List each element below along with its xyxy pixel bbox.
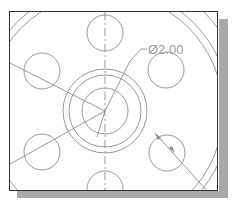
frame-shadow-right (219, 19, 228, 198)
outer-circle-1 (10, 12, 218, 191)
drawing-viewport[interactable]: Ø2.00 (9, 11, 218, 191)
frame-shadow-bottom (17, 191, 228, 198)
radial-line-upper (10, 63, 105, 111)
diameter-dimension-text: Ø2.00 (148, 42, 183, 57)
bolt-hole-upper-left[interactable] (24, 53, 60, 89)
outer-circle-3 (10, 12, 218, 191)
bolt-hole-lower-right[interactable] (149, 135, 185, 171)
outer-circle-2 (10, 12, 218, 191)
flange-drawing: Ø2.00 (10, 12, 218, 191)
bolt-hole-upper-right[interactable] (148, 52, 184, 88)
diameter-leader (97, 49, 147, 137)
radial-line-lower (10, 111, 105, 164)
